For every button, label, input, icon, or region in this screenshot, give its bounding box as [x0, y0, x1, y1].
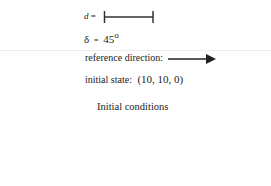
- angle-value: 45: [103, 33, 114, 45]
- separator-line: [0, 50, 271, 51]
- angle-label: δ = 45o: [84, 30, 119, 45]
- reference-direction-arrow-icon: [167, 53, 217, 65]
- equals-sign: =: [94, 36, 99, 45]
- d-symbol: d: [84, 11, 89, 21]
- step-length-bar-icon: [103, 10, 155, 24]
- figure-caption: Initial conditions: [97, 101, 168, 112]
- initial-state-value: (10, 10, 0): [137, 73, 183, 85]
- reference-direction-label: reference direction:: [85, 52, 163, 63]
- step-length-label: d =: [84, 11, 96, 21]
- initial-state-label: initial state:: [85, 74, 132, 85]
- degree-symbol: o: [114, 30, 119, 40]
- equals-sign: =: [91, 11, 96, 21]
- delta-symbol: δ: [84, 33, 89, 45]
- initial-state-row: initial state: (10, 10, 0): [85, 73, 183, 85]
